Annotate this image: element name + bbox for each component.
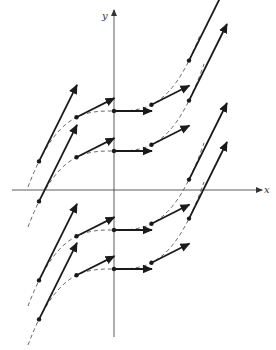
sample-point xyxy=(149,222,153,226)
slope-segment xyxy=(149,205,189,226)
sample-point xyxy=(74,115,78,119)
sample-point xyxy=(37,278,41,282)
slope-segment xyxy=(187,142,227,221)
slope-arrow xyxy=(77,138,115,157)
sample-point xyxy=(37,317,41,321)
sample-point xyxy=(37,199,41,203)
slope-arrow xyxy=(189,103,227,180)
slope-segments xyxy=(37,0,227,322)
slope-field-diagram: x y xyxy=(0,0,276,350)
slope-arrow xyxy=(152,86,190,105)
y-axis-label: y xyxy=(101,10,108,21)
sample-point xyxy=(112,149,116,153)
solution-curve xyxy=(28,64,204,227)
slope-arrow xyxy=(152,244,190,263)
slope-arrow xyxy=(189,24,227,101)
slope-segment xyxy=(74,138,114,159)
solution-curve xyxy=(28,143,204,306)
sample-point xyxy=(149,143,153,147)
slope-arrow xyxy=(77,98,115,117)
slope-arrow xyxy=(152,126,190,145)
slope-segment xyxy=(187,103,227,182)
slope-arrow xyxy=(189,142,227,219)
slope-segment xyxy=(37,204,77,283)
slope-segment xyxy=(149,126,189,147)
slope-segment xyxy=(112,228,152,232)
slope-segment xyxy=(149,244,189,265)
slope-segment xyxy=(74,217,114,238)
sample-point xyxy=(37,159,41,163)
slope-segment xyxy=(74,256,114,277)
x-axis-label: x xyxy=(264,184,270,195)
sample-point xyxy=(112,228,116,232)
slope-segment xyxy=(37,243,77,322)
sample-point xyxy=(74,273,78,277)
solution-curve xyxy=(28,182,204,345)
sample-point xyxy=(187,58,191,62)
slope-arrow xyxy=(152,205,190,224)
sample-point xyxy=(187,177,191,181)
slope-arrow xyxy=(39,85,77,162)
slope-segment xyxy=(187,0,227,63)
slope-arrow xyxy=(189,0,227,61)
sample-point xyxy=(74,234,78,238)
slope-arrow xyxy=(39,243,77,320)
slope-segment xyxy=(187,24,227,103)
sample-point xyxy=(187,98,191,102)
sample-point xyxy=(112,109,116,113)
slope-segment xyxy=(112,149,152,153)
slope-arrow xyxy=(77,217,115,236)
slope-arrow xyxy=(39,204,77,281)
slope-arrow xyxy=(77,256,115,275)
slope-segment xyxy=(149,86,189,107)
sample-point xyxy=(112,267,116,271)
slope-segment xyxy=(112,267,152,271)
sample-point xyxy=(149,103,153,107)
slope-segment xyxy=(37,125,77,204)
sample-point xyxy=(74,155,78,159)
sample-point xyxy=(187,216,191,220)
slope-segment xyxy=(74,98,114,119)
sample-point xyxy=(149,261,153,265)
slope-segment xyxy=(37,85,77,164)
slope-segment xyxy=(112,109,152,113)
